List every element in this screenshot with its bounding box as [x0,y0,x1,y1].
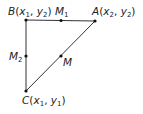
label-a: A(x2, y2) [91,5,135,19]
label-m: M [63,56,72,68]
label-m2: M2 [9,50,23,64]
label-m1: M1 [55,5,69,19]
label-b: B(x1, y2) [8,5,52,19]
point-a [93,19,96,22]
label-c: C(x1, y1) [22,94,66,108]
triangle-diagram: B(x1, y2) M1 A(x2, y2) M2 M C(x1, y1) [0,0,143,114]
point-m2 [24,54,27,57]
point-m1 [59,19,62,22]
point-c [24,89,27,92]
